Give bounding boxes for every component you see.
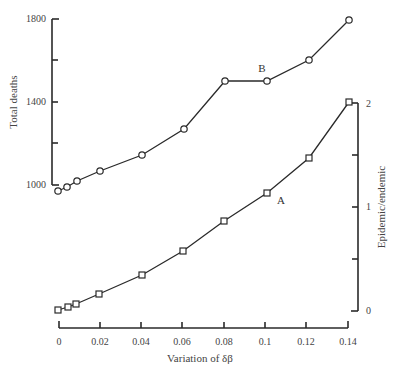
x-axis-title: Variation of δβ xyxy=(167,352,233,364)
x-tick-0.06: 0.06 xyxy=(173,336,191,347)
series-a-point xyxy=(306,155,312,161)
x-tick-0.04: 0.04 xyxy=(132,336,150,347)
series-b-point xyxy=(346,17,352,23)
series-b: B xyxy=(55,17,352,194)
left-tick-1400: 1400 xyxy=(26,96,46,107)
x-tick-0.12: 0.12 xyxy=(297,336,315,347)
series-a-point xyxy=(264,190,270,196)
series-b-point xyxy=(55,188,61,194)
x-axis: 0 0.02 0.04 0.06 0.08 0.1 0.12 0.14 Vari… xyxy=(57,321,357,364)
series-a-point xyxy=(221,218,227,224)
x-tick-0.14: 0.14 xyxy=(339,336,357,347)
series-a-point xyxy=(73,301,79,307)
series-a-point xyxy=(180,248,186,254)
left-tick-1000: 1000 xyxy=(26,179,46,190)
x-tick-0.02: 0.02 xyxy=(91,336,109,347)
series-b-point xyxy=(74,178,80,184)
right-axis-title: Epidemic/endemic xyxy=(375,166,387,249)
right-tick-2: 2 xyxy=(366,98,371,109)
series-b-point xyxy=(139,152,145,158)
series-a: A xyxy=(55,99,352,313)
right-tick-0: 0 xyxy=(366,305,371,316)
left-axis-title: Total deaths xyxy=(7,75,19,128)
series-b-point xyxy=(97,168,103,174)
dual-axis-line-chart: 1800 1400 1000 Total deaths 2 1 0 Epidem… xyxy=(0,0,398,373)
series-b-line xyxy=(58,20,349,191)
right-y-axis: 2 1 0 Epidemic/endemic xyxy=(351,98,387,316)
x-tick-0.08: 0.08 xyxy=(215,336,233,347)
series-b-point xyxy=(306,57,312,63)
series-a-point xyxy=(65,304,71,310)
series-b-point xyxy=(264,78,270,84)
series-b-label: B xyxy=(258,62,265,74)
series-b-point xyxy=(64,184,70,190)
series-a-line xyxy=(58,102,349,310)
x-tick-0.1: 0.1 xyxy=(259,336,272,347)
series-a-point xyxy=(96,291,102,297)
series-a-point xyxy=(139,272,145,278)
series-a-point xyxy=(55,307,61,313)
series-b-point xyxy=(222,78,228,84)
series-b-point xyxy=(181,126,187,132)
x-tick-0: 0 xyxy=(57,336,62,347)
left-y-axis: 1800 1400 1000 Total deaths xyxy=(7,13,59,190)
series-a-point xyxy=(346,99,352,105)
left-tick-1800: 1800 xyxy=(26,13,46,24)
right-tick-1: 1 xyxy=(366,201,371,212)
series-a-label: A xyxy=(277,194,285,206)
